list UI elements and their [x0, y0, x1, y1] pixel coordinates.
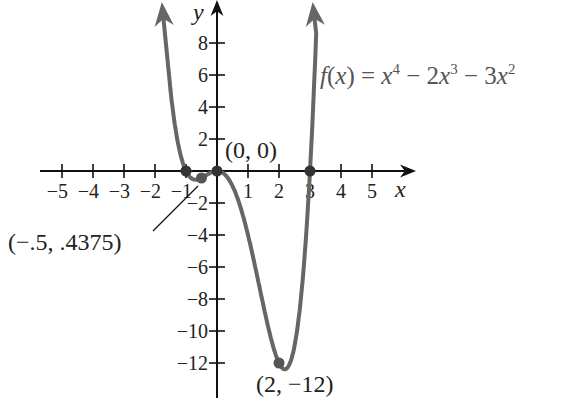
y-tick-label: −2	[187, 192, 208, 214]
chart: −5−4−3−2−112345 8642−2−4−6−8−10−12 y x (…	[0, 0, 583, 411]
annotation-local-max: (−.5, .4375)	[8, 229, 122, 255]
x-tick-label: 2	[274, 180, 284, 202]
x-tick-label: 4	[336, 180, 346, 202]
y-tick-label: −12	[177, 352, 208, 374]
x-tick-label: −5	[47, 180, 68, 202]
x-tick-label: −3	[109, 180, 130, 202]
y-tick-label: −10	[177, 320, 208, 342]
y-axis-label: y	[191, 0, 204, 25]
annotation-minimum: (2, −12)	[256, 371, 334, 397]
x-tick-label: 5	[367, 180, 377, 202]
x-tick-label: −2	[140, 180, 161, 202]
y-tick-label: −6	[187, 256, 208, 278]
annotation-origin: (0, 0)	[225, 137, 277, 163]
x-tick-label: 1	[243, 180, 253, 202]
y-tick-label: −4	[187, 224, 208, 246]
data-point	[305, 166, 316, 177]
curve-arrow-left-icon	[163, 14, 171, 90]
function-label: f(x) = x4 − 2x3 − 3x2	[320, 61, 515, 90]
data-point	[181, 166, 192, 177]
curve-arrow-right-icon	[314, 14, 316, 33]
data-point	[196, 173, 207, 184]
y-tick-label: 8	[198, 32, 208, 54]
y-tick-label: 4	[198, 96, 208, 118]
x-tick-label: −4	[78, 180, 99, 202]
y-tick-label: −8	[187, 288, 208, 310]
x-axis-label: x	[394, 176, 406, 202]
data-point	[212, 166, 223, 177]
y-tick-label: 6	[198, 64, 208, 86]
data-point	[274, 358, 285, 369]
y-tick-label: 2	[198, 128, 208, 150]
